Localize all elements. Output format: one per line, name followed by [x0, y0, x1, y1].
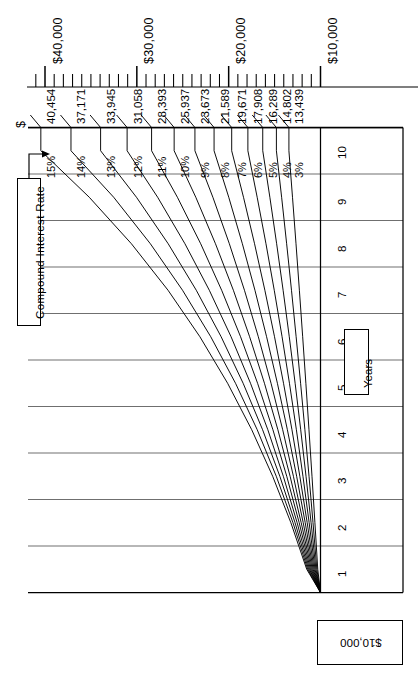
value-label-leader [60, 115, 71, 128]
value-label-leader [221, 115, 232, 128]
compound-interest-chart: $10,000$20,000$30,000$40,000 $ 40,45437,… [0, 0, 419, 686]
compound-interest-rate-callout: Compound Interest Rate [17, 178, 41, 326]
years-callout: Years [344, 329, 369, 395]
value-label-leader [90, 115, 101, 128]
value-label-leader [237, 115, 248, 128]
growth-curve [127, 151, 320, 593]
starting-principal-callout: $10,000 [317, 620, 403, 665]
growth-curve [214, 151, 320, 593]
starting-principal-label: $10,000 [318, 621, 404, 666]
value-label-leader [252, 115, 262, 128]
value-label-leader [30, 115, 40, 128]
value-label-leader [117, 115, 128, 128]
value-label-leader [164, 115, 175, 128]
growth-curve [152, 151, 321, 593]
value-label-leader [184, 115, 195, 128]
value-label-leader [278, 115, 289, 128]
growth-curve [71, 151, 321, 593]
growth-curve [41, 151, 321, 593]
growth-curve [232, 151, 321, 593]
compound-interest-rate-label: Compound Interest Rate [34, 186, 46, 319]
value-label-leader [204, 115, 215, 128]
value-label-leader [141, 115, 152, 128]
value-label-leader [266, 115, 277, 128]
callout-arrow-head [42, 150, 50, 157]
years-label: Years [362, 359, 374, 388]
starting-principal-flip: $10,000 [318, 621, 404, 666]
